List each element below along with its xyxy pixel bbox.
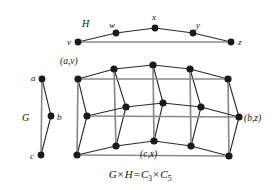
- product-vertex-ax: [149, 61, 156, 68]
- product-vertex-bz: [235, 113, 242, 120]
- caption-c-subscript-2: 5: [168, 174, 172, 183]
- graph-g-edge-c-a: [41, 79, 42, 155]
- product-vertex-bw: [122, 103, 129, 110]
- product-edge-cy-cz: [191, 146, 229, 156]
- product-vertex-cx: [150, 137, 157, 144]
- graph-g-vertex-label-a: a: [31, 74, 36, 83]
- label-cx: (c,x): [140, 150, 157, 160]
- graph-h-vertex-label-x: x: [152, 13, 156, 22]
- product-edge-bx-by: [163, 103, 201, 107]
- graph-g-vertices: [38, 76, 55, 159]
- graph-h-vertex-w: [113, 30, 120, 37]
- label-bz: (b,z): [244, 114, 261, 124]
- product-edge-bz-cz: [229, 117, 239, 156]
- product-edge-bv-cv: [77, 116, 87, 155]
- product-vertex-by: [197, 103, 204, 110]
- product-edge-cv-av: [77, 79, 78, 155]
- graph-h-vertex-x: [152, 25, 159, 32]
- graph-h-vertex-label-y: y: [196, 21, 200, 30]
- caption-c-2: C: [160, 168, 167, 180]
- product-vertex-cz: [225, 152, 232, 159]
- product-edge-ax-ay: [153, 65, 190, 69]
- caption-g: G: [109, 168, 117, 180]
- product-edge-ay-az: [190, 69, 228, 79]
- product-vertex-aw: [110, 65, 117, 72]
- caption-equals: =: [133, 168, 141, 180]
- product-edge-cx-ax: [153, 65, 154, 141]
- product-edge-aw-ax: [114, 65, 153, 69]
- graph-h-edge-v-w: [78, 33, 116, 42]
- graph-h-vertex-label-w: w: [109, 21, 115, 30]
- graph-h-edge-w-x: [116, 28, 155, 33]
- graph-h-vertex-y: [190, 30, 197, 37]
- product-edge-aw-bw: [114, 69, 126, 107]
- product-edge-cx-cy: [154, 141, 191, 146]
- label-av: (a,v): [60, 57, 78, 67]
- graph-h-vertex-z: [228, 39, 235, 46]
- product-vertex-bv: [83, 112, 90, 119]
- graph-g-vertex-b: [48, 113, 55, 120]
- product-graph-edges: [77, 65, 239, 156]
- product-edge-cw-aw: [114, 69, 116, 146]
- product-vertex-cy: [187, 142, 194, 149]
- product-edge-bz-bv: [87, 116, 239, 117]
- graph-g-vertex-label-b: b: [57, 113, 62, 122]
- product-edge-cy-ay: [190, 69, 191, 146]
- product-edge-cw-cx: [116, 141, 154, 146]
- product-vertex-ay: [186, 65, 193, 72]
- product-edge-bv-bw: [87, 107, 126, 116]
- graph-g-edge-a-b: [42, 79, 51, 116]
- graph-g-edge-b-c: [41, 116, 51, 155]
- graph-g-vertex-a: [39, 76, 46, 83]
- graph-h-edge-y-z: [193, 33, 231, 42]
- caption-h: H: [125, 168, 133, 180]
- product-edge-bx-cx: [154, 103, 163, 141]
- figure-caption: G×H=C3×C5: [0, 168, 280, 183]
- product-vertex-bx: [159, 99, 166, 106]
- product-edge-bw-bx: [126, 103, 163, 107]
- graph-g-name-label: G: [22, 113, 29, 123]
- caption-times-1: ×: [117, 168, 125, 180]
- figure-canvas: [0, 0, 280, 190]
- product-edge-bw-cw: [116, 107, 126, 146]
- graph-h-vertex-v: [75, 39, 82, 46]
- graph-h-edge-x-y: [155, 28, 193, 33]
- product-vertex-cv: [73, 151, 80, 158]
- product-edge-by-cy: [191, 107, 201, 146]
- product-vertex-az: [224, 75, 231, 82]
- product-edge-az-bz: [228, 79, 239, 117]
- product-edge-av-aw: [78, 69, 114, 79]
- product-vertex-av: [74, 75, 81, 82]
- graph-h-vertex-label-z: z: [238, 38, 242, 47]
- product-edge-ay-by: [190, 69, 201, 107]
- product-vertex-cw: [112, 142, 119, 149]
- product-edge-by-bz: [201, 107, 239, 117]
- graph-product-figure: H G vwxyzabc(a,v)(b,z)(c,x) G×H=C3×C5: [0, 0, 280, 190]
- graph-g-vertex-label-c: c: [30, 152, 34, 161]
- graph-h-vertex-label-v: v: [67, 38, 71, 47]
- graph-h-name-label: H: [82, 19, 89, 29]
- graph-g-vertex-c: [38, 152, 45, 159]
- product-edge-cv-cw: [77, 146, 116, 155]
- product-edge-ax-bx: [153, 65, 163, 103]
- product-edge-av-bv: [78, 79, 87, 116]
